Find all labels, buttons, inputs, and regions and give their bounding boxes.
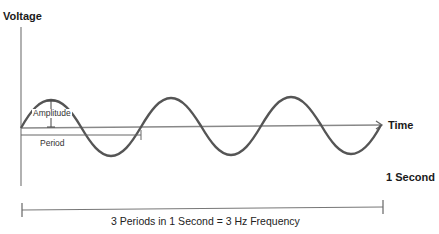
amplitude-label: Amplitude xyxy=(32,109,72,118)
y-axis-label: Voltage xyxy=(3,11,42,22)
one-second-bracket xyxy=(22,207,383,210)
sine-wave xyxy=(21,97,381,156)
x-axis-label: Time xyxy=(388,120,413,131)
frequency-caption: 3 Periods in 1 Second = 3 Hz Frequency xyxy=(111,216,300,227)
duration-label: 1 Second xyxy=(386,172,435,183)
period-label: Period xyxy=(40,139,65,148)
